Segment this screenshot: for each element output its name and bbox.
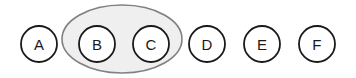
node-c[interactable]: C — [133, 26, 169, 62]
node-label-a: A — [34, 36, 44, 53]
node-group-diagram: ABCDEF — [0, 0, 356, 78]
node-label-b: B — [92, 36, 102, 53]
node-b[interactable]: B — [79, 26, 115, 62]
node-a[interactable]: A — [21, 26, 57, 62]
node-label-e: E — [257, 36, 267, 53]
diagram-canvas: ABCDEF — [0, 0, 356, 78]
node-label-c: C — [145, 36, 156, 53]
node-label-d: D — [201, 36, 212, 53]
node-d[interactable]: D — [189, 26, 225, 62]
node-e[interactable]: E — [244, 26, 280, 62]
node-label-f: F — [312, 36, 321, 53]
node-f[interactable]: F — [299, 26, 335, 62]
